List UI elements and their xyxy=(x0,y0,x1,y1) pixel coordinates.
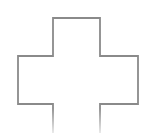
plus-shape-drawing xyxy=(0,0,146,139)
plus-shape-outline xyxy=(18,18,138,133)
shape-canvas xyxy=(0,0,146,139)
